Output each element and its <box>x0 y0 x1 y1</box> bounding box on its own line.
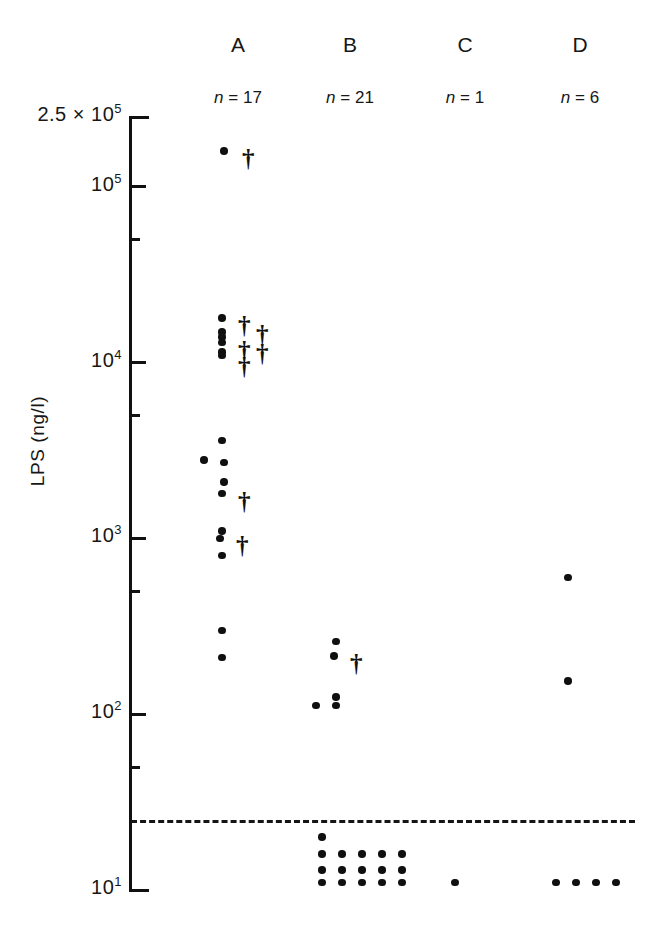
y-tick-8 <box>129 766 140 769</box>
data-marker-dot <box>358 850 366 858</box>
data-marker-dot <box>358 879 366 887</box>
data-marker-dot <box>218 314 226 322</box>
data-marker-dot <box>332 638 340 646</box>
y-tick-5 <box>129 537 146 540</box>
data-marker-dot <box>338 879 346 887</box>
data-marker-dot <box>318 866 326 874</box>
data-marker-dot <box>218 490 226 498</box>
data-marker-dot <box>332 702 340 710</box>
data-marker-dot <box>564 574 572 582</box>
data-marker-dot <box>338 866 346 874</box>
data-marker-dot <box>572 879 580 887</box>
data-marker-dot <box>398 850 406 858</box>
y-tick-6 <box>129 590 140 593</box>
data-marker-dot <box>378 850 386 858</box>
data-marker-dot <box>220 147 228 155</box>
y-axis-title: LPS (ng/l) <box>27 341 49 541</box>
y-tick-label-5: 103 <box>91 524 122 547</box>
column-header-b: B <box>305 33 395 57</box>
column-header-d: D <box>535 33 625 57</box>
y-tick-2 <box>129 238 140 241</box>
data-marker-dot <box>216 535 224 543</box>
y-tick-label-3: 104 <box>91 349 122 372</box>
data-marker-dot <box>612 879 620 887</box>
column-count-d: n = 6 <box>525 88 635 108</box>
data-marker-dot <box>220 459 228 467</box>
data-marker-dot <box>330 652 338 660</box>
y-tick-9 <box>129 889 149 892</box>
y-tick-1 <box>129 185 146 188</box>
data-marker-dot <box>218 552 226 560</box>
data-marker-dot <box>318 879 326 887</box>
column-count-b: n = 21 <box>295 88 405 108</box>
column-count-a: n = 17 <box>183 88 293 108</box>
y-tick-label-9: 101 <box>91 876 122 899</box>
data-marker-dot <box>338 850 346 858</box>
data-marker-dot <box>200 456 208 464</box>
data-marker-dot <box>552 879 560 887</box>
data-marker-dot <box>451 879 459 887</box>
y-tick-label-7: 102 <box>91 700 122 723</box>
detection-limit-line <box>131 820 635 823</box>
data-marker-dot <box>218 527 226 535</box>
data-marker-dot <box>332 693 340 701</box>
data-marker-dot <box>398 866 406 874</box>
y-tick-label-1: 105 <box>91 173 122 196</box>
column-header-c: C <box>420 33 510 57</box>
data-marker-dot <box>220 478 228 486</box>
y-tick-4 <box>129 414 140 417</box>
data-marker-dot <box>318 833 326 841</box>
column-header-a: A <box>193 33 283 57</box>
figure-page: LPS (ng/l) 2.5 × 105105104103102101 An =… <box>0 0 649 926</box>
data-marker-dot <box>378 879 386 887</box>
y-tick-label-0: 2.5 × 105 <box>37 103 122 126</box>
data-marker-dot <box>358 866 366 874</box>
data-marker-dot <box>218 654 226 662</box>
data-marker-dot <box>218 627 226 635</box>
data-marker-dot <box>218 352 226 360</box>
data-marker-dot <box>398 879 406 887</box>
data-marker-dot <box>218 437 226 445</box>
data-marker-dot <box>378 866 386 874</box>
data-marker-dot <box>564 677 572 685</box>
y-axis-spine <box>129 116 132 891</box>
scatter-plot: LPS (ng/l) 2.5 × 105105104103102101 An =… <box>0 0 649 926</box>
y-tick-7 <box>129 713 146 716</box>
y-tick-0 <box>129 116 149 119</box>
data-marker-dot <box>592 879 600 887</box>
column-count-c: n = 1 <box>410 88 520 108</box>
data-marker-dot <box>312 702 320 710</box>
y-tick-3 <box>129 361 146 364</box>
data-marker-dot <box>318 850 326 858</box>
data-marker-dot <box>218 339 226 347</box>
